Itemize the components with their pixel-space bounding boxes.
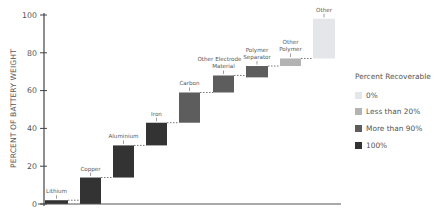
y-tick-label: 80 xyxy=(27,49,37,58)
legend-label: More than 90% xyxy=(366,124,422,133)
legend: Percent Recoverable 0% Less than 20% Mor… xyxy=(355,72,431,153)
legend-swatch-icon xyxy=(355,92,362,99)
bar-polymer-separator xyxy=(246,66,268,77)
legend-item-0pct: 0% xyxy=(355,87,431,104)
bar-label: Other xyxy=(283,39,300,45)
bar-label: Other xyxy=(316,7,333,13)
bar-other-polymer xyxy=(280,58,301,66)
bar-other-electrode-material xyxy=(213,75,234,92)
bar-label: Separator xyxy=(243,54,271,61)
y-tick-label: 20 xyxy=(27,162,37,171)
legend-label: 0% xyxy=(366,91,378,100)
y-ticks-group: 020406080100 xyxy=(22,11,47,209)
y-tick-label: 40 xyxy=(27,124,37,133)
bar-other xyxy=(313,19,335,59)
bar-label: Aluminium xyxy=(108,133,138,139)
bar-label: Material xyxy=(212,63,235,69)
bar-label: Carbon xyxy=(179,80,200,86)
bar-label: Polymer xyxy=(246,47,269,54)
bar-iron xyxy=(146,123,167,146)
bar-label: Copper xyxy=(80,166,101,173)
y-tick-label: 60 xyxy=(27,86,37,95)
bar-label: Other Electrode xyxy=(197,56,242,62)
bar-label: Polymer xyxy=(279,46,302,53)
y-axis-label: PERCENT OF BATTERY WEIGHT xyxy=(9,34,18,184)
bar-carbon xyxy=(179,92,200,122)
bar-aluminium xyxy=(113,145,134,177)
legend-item-less-than-20: Less than 20% xyxy=(355,104,431,121)
legend-swatch-icon xyxy=(355,142,362,149)
legend-item-100pct: 100% xyxy=(355,137,431,154)
bar-copper xyxy=(80,178,101,204)
legend-title: Percent Recoverable xyxy=(355,72,431,81)
bar-label: Lithium xyxy=(46,188,67,194)
legend-label: Less than 20% xyxy=(366,107,420,116)
legend-label: 100% xyxy=(366,141,387,150)
y-tick-label: 100 xyxy=(22,11,37,20)
bar-label: Iron xyxy=(151,111,162,117)
legend-swatch-icon xyxy=(355,108,362,115)
y-tick-label: 0 xyxy=(32,200,37,209)
legend-swatch-icon xyxy=(355,125,362,132)
legend-item-more-than-90: More than 90% xyxy=(355,120,431,137)
